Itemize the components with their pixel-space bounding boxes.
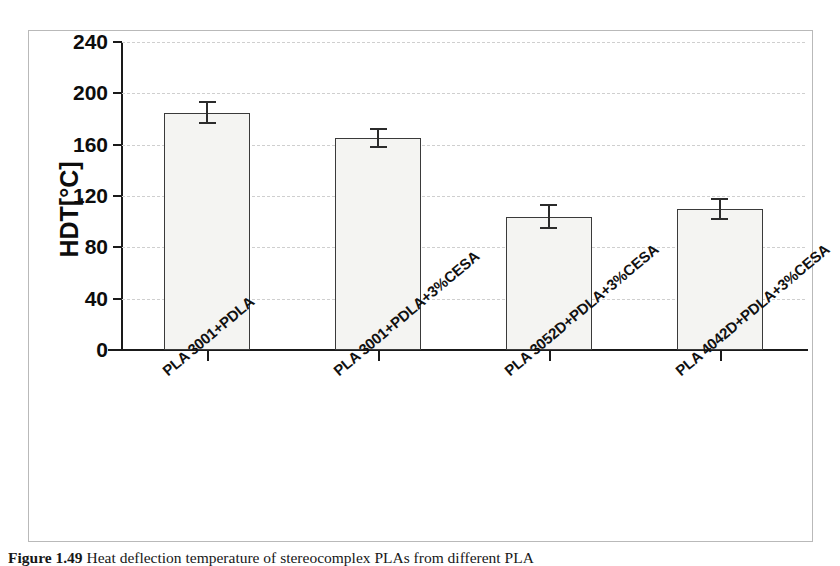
gridline [122, 42, 805, 43]
gridline [122, 93, 805, 94]
y-axis-tick-labels: 04080120160200240 [48, 0, 108, 566]
y-axis-tick-label: 80 [48, 236, 108, 257]
x-axis-tick-mark [720, 351, 722, 361]
error-bar-cap-upper [540, 204, 557, 206]
y-axis-tick-mark [113, 349, 122, 351]
error-bar-cap-upper [711, 198, 728, 200]
y-axis-tick-mark [113, 41, 122, 43]
plot-area [122, 42, 805, 350]
error-bar-cap-lower [199, 122, 216, 124]
error-bar-cap-upper [370, 128, 387, 130]
y-axis-tick-mark [113, 298, 122, 300]
error-bar [719, 199, 721, 220]
error-bar [377, 129, 379, 147]
error-bar-cap-upper [199, 101, 216, 103]
y-axis-tick-mark [113, 92, 122, 94]
caption-text: Heat deflection temperature of stereocom… [87, 549, 534, 566]
error-bar-cap-lower [711, 218, 728, 220]
y-axis-tick-label: 160 [48, 134, 108, 155]
y-axis-tick-label: 120 [48, 185, 108, 206]
x-axis-tick-mark [378, 351, 380, 361]
y-axis-tick-label: 200 [48, 82, 108, 103]
y-axis-tick-label: 0 [48, 339, 108, 360]
error-bar [206, 102, 208, 123]
figure-root: HDT[°C] 04080120160200240 PLA 3001+PDLAP… [0, 0, 840, 566]
y-axis-tick-mark [113, 144, 122, 146]
x-axis-tick-mark [207, 351, 209, 361]
y-axis-tick-mark [113, 195, 122, 197]
error-bar-cap-lower [540, 227, 557, 229]
caption-label: Figure 1.49 [8, 549, 83, 566]
x-axis-tick-mark [549, 351, 551, 361]
error-bar-cap-lower [370, 146, 387, 148]
figure-caption: Figure 1.49 Heat deflection temperature … [8, 549, 840, 566]
y-axis-tick-mark [113, 246, 122, 248]
y-axis-tick-label: 240 [48, 31, 108, 52]
error-bar [548, 205, 550, 228]
y-axis-tick-label: 40 [48, 288, 108, 309]
